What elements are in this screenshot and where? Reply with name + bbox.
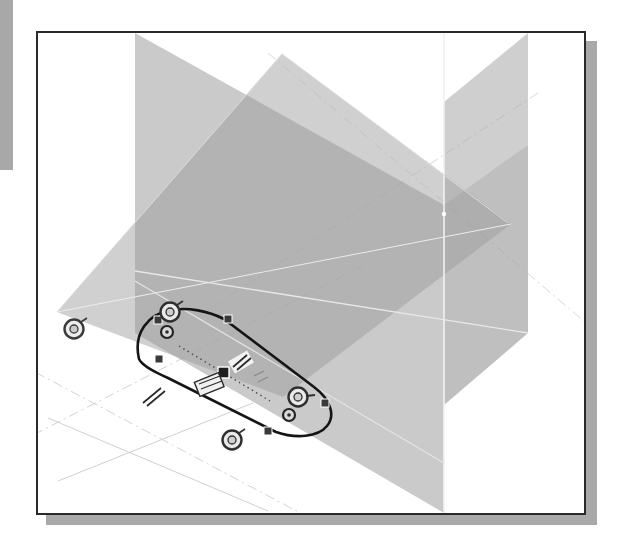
scene-svg[interactable] [38, 33, 584, 513]
sketch-point-right[interactable] [321, 399, 329, 407]
origin-marker[interactable] [442, 212, 446, 216]
circle-handle-outside[interactable] [65, 318, 88, 339]
page-edge-strip [0, 0, 13, 170]
sketch-point-top[interactable] [224, 315, 232, 323]
circle-handle-small-lower[interactable] [283, 409, 295, 421]
screenshot-root [0, 0, 623, 559]
circle-grip-inner-right [294, 393, 302, 401]
small-ring-upper-center [165, 330, 169, 334]
circle-handle-bottom[interactable] [223, 429, 246, 450]
circle-grip-inner-outside [70, 325, 78, 333]
sketch-point-left-lower[interactable] [155, 355, 163, 363]
circle-grip-tick-bottom [239, 429, 245, 433]
cad-viewport[interactable] [36, 31, 586, 515]
constraint-parallel-lower[interactable] [143, 388, 165, 406]
constraint-dimension-block[interactable] [194, 373, 224, 397]
construction-cross-lower [48, 403, 268, 511]
circle-grip-inner [166, 308, 174, 316]
small-ring-lower-center [287, 413, 291, 417]
circle-grip-inner-bottom [228, 436, 236, 444]
circle-handle-small-upper[interactable] [161, 326, 173, 338]
sketch-point-bottom[interactable] [264, 427, 272, 435]
circle-grip-radius-handle[interactable] [306, 395, 315, 396]
viewport-canvas[interactable] [38, 33, 584, 513]
